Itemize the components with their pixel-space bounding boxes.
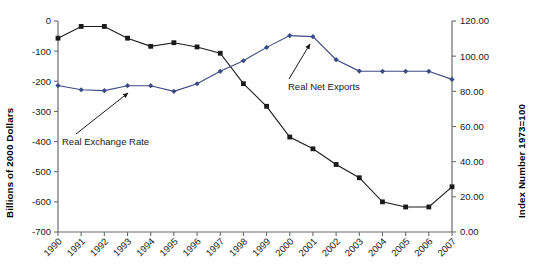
data-point-marker <box>449 77 454 82</box>
annotation-leader-line <box>76 93 128 134</box>
data-point-marker <box>311 146 316 151</box>
data-point-marker <box>403 69 408 74</box>
series-real-net-exports <box>56 24 455 209</box>
x-axis: 1990199119921993199419951996199719981999… <box>41 232 458 258</box>
data-point-marker <box>194 81 199 86</box>
data-point-marker <box>403 205 408 210</box>
x-axis-tick-label: 1991 <box>64 236 87 259</box>
right-y-axis: 0.0020.0040.0060.0080.00100.00120.00 <box>452 15 489 237</box>
x-axis-tick-label: 1997 <box>203 236 226 259</box>
right-axis-title: Index Number 1973=100 <box>516 104 527 218</box>
data-point-marker <box>426 69 431 74</box>
x-axis-tick-label: 2003 <box>342 236 365 259</box>
data-point-marker <box>426 205 431 210</box>
right-axis-tick-label: 80.00 <box>460 86 484 97</box>
x-axis-tick-label: 2005 <box>389 236 412 259</box>
left-axis-tick-label: 0 <box>46 15 51 26</box>
data-point-marker <box>148 44 153 49</box>
data-point-marker <box>264 104 269 109</box>
right-axis-tick-label: 40.00 <box>460 156 484 167</box>
annotation-real-net-exports: Real Net Exports <box>288 44 360 92</box>
x-axis-tick-label: 1994 <box>134 236 157 259</box>
left-axis-tick-label: -100 <box>32 46 51 57</box>
x-axis-tick-label: 2002 <box>319 236 342 259</box>
annotation-leader-line <box>289 44 310 79</box>
right-axis-tick-label: 120.00 <box>460 15 489 26</box>
right-axis-tick-label: 20.00 <box>460 191 484 202</box>
data-point-marker <box>218 69 223 74</box>
x-axis-tick-label: 2000 <box>273 236 296 259</box>
data-point-marker <box>450 184 455 189</box>
dual-axis-line-chart: Billions of 2000 Dollars Index Number 19… <box>0 0 533 277</box>
left-axis-tick-label: -600 <box>32 196 51 207</box>
right-axis-tick-label: 0.00 <box>460 226 479 237</box>
data-point-marker <box>125 36 130 41</box>
data-point-marker <box>195 45 200 50</box>
x-axis-tick-label: 2007 <box>435 236 458 259</box>
data-point-marker <box>241 81 246 86</box>
data-point-marker <box>55 83 60 88</box>
annotation-real-exchange-rate: Real Exchange Rate <box>62 93 149 147</box>
x-axis-tick-label: 1990 <box>41 236 64 259</box>
data-point-marker <box>171 89 176 94</box>
data-point-marker <box>287 33 292 38</box>
left-axis-tick-label: -700 <box>32 226 51 237</box>
data-point-marker <box>264 45 269 50</box>
left-axis-title-group: Billions of 2000 Dollars <box>4 107 15 218</box>
series-real-exchange-rate <box>55 33 454 94</box>
data-point-marker <box>357 69 362 74</box>
data-point-marker <box>218 51 223 56</box>
left-axis-tick-label: -400 <box>32 136 51 147</box>
data-point-marker <box>334 162 339 167</box>
data-point-marker <box>357 175 362 180</box>
data-point-marker <box>171 40 176 45</box>
data-point-marker <box>102 88 107 93</box>
annotation-label: Real Net Exports <box>288 81 360 92</box>
data-point-marker <box>79 87 84 92</box>
chart-container: Billions of 2000 Dollars Index Number 19… <box>0 0 533 277</box>
data-point-marker <box>56 36 61 41</box>
right-axis-title-group: Index Number 1973=100 <box>516 104 527 218</box>
annotation-layer: Real Exchange RateReal Net Exports <box>62 44 360 147</box>
x-axis-tick-label: 2006 <box>412 236 435 259</box>
x-axis-tick-label: 1992 <box>88 236 111 259</box>
data-point-marker <box>79 24 84 29</box>
series-layer <box>55 24 454 209</box>
x-axis-tick-label: 1996 <box>180 236 203 259</box>
data-point-marker <box>102 24 107 29</box>
left-axis-tick-label: -300 <box>32 106 51 117</box>
x-axis-tick-label: 2004 <box>366 236 389 259</box>
x-axis-tick-label: 1993 <box>111 236 134 259</box>
series-line <box>58 36 452 92</box>
x-axis-tick-label: 1998 <box>227 236 250 259</box>
annotation-label: Real Exchange Rate <box>62 136 149 147</box>
data-point-marker <box>380 69 385 74</box>
data-point-marker <box>125 83 130 88</box>
x-axis-tick-label: 1999 <box>250 236 273 259</box>
data-point-marker <box>380 199 385 204</box>
left-axis-tick-label: -200 <box>32 76 51 87</box>
left-axis-title: Billions of 2000 Dollars <box>4 107 15 218</box>
right-axis-tick-label: 100.00 <box>460 51 489 62</box>
data-point-marker <box>148 83 153 88</box>
left-y-axis: 0-100-200-300-400-500-600-700 <box>32 15 58 237</box>
x-axis-tick-label: 1995 <box>157 236 180 259</box>
x-axis-tick-label: 2001 <box>296 236 319 259</box>
data-point-marker <box>241 58 246 63</box>
data-point-marker <box>287 135 292 140</box>
left-axis-tick-label: -500 <box>32 166 51 177</box>
right-axis-tick-label: 60.00 <box>460 121 484 132</box>
